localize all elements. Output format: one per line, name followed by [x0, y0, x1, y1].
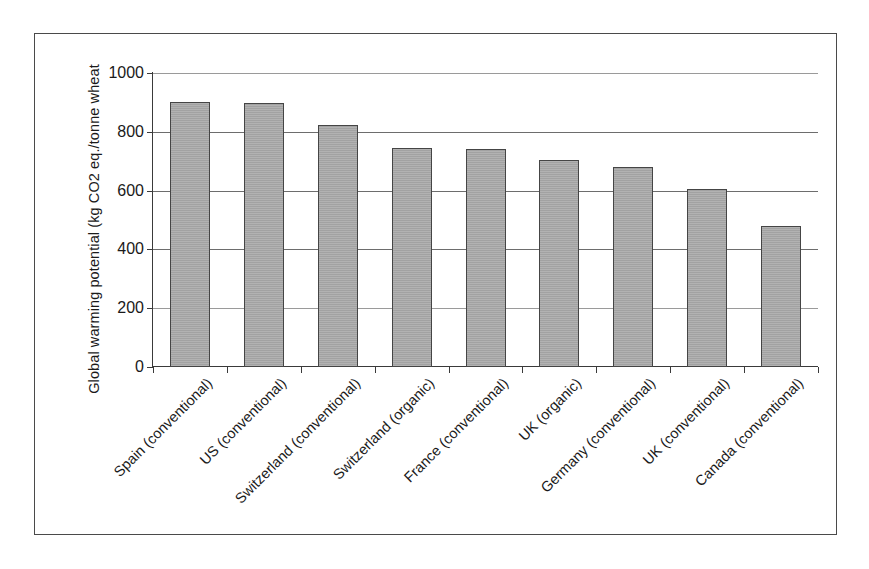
y-tick-label: 0 [135, 358, 144, 376]
bar [761, 226, 801, 367]
y-tick-group: 200 [153, 308, 154, 309]
x-tick-mark [744, 367, 745, 373]
y-tick-mark [147, 132, 153, 133]
x-tick-label: Switzerland (conventional) [231, 375, 363, 507]
y-tick-group: 800 [153, 132, 154, 133]
y-tick-mark [147, 73, 153, 74]
bar [687, 189, 727, 367]
y-tick-group: 400 [153, 249, 154, 250]
x-tick-mark [375, 367, 376, 373]
figure-frame: Global warming potential (kg CO2 eq./ton… [34, 33, 837, 535]
y-tick-label: 800 [117, 123, 144, 141]
bar [613, 167, 653, 367]
x-tick-mark [522, 367, 523, 373]
bar [170, 102, 210, 367]
y-tick-label: 200 [117, 299, 144, 317]
x-tick-mark [153, 367, 154, 373]
y-tick-mark [147, 191, 153, 192]
x-tick-mark [301, 367, 302, 373]
plot-inner: 02004006008001000 [153, 73, 818, 367]
y-tick-label: 400 [117, 240, 144, 258]
x-tick-label: UK (organic) [516, 375, 585, 444]
gridline [153, 73, 818, 74]
x-axis-labels: Spain (conventional)US (conventional)Swi… [153, 375, 818, 535]
y-tick-label: 600 [117, 182, 144, 200]
y-axis-title: Global warming potential (kg CO2 eq./ton… [86, 49, 108, 409]
y-tick-mark [147, 249, 153, 250]
bar [318, 125, 358, 367]
y-tick-mark [147, 308, 153, 309]
bar [244, 103, 284, 367]
x-tick-mark [596, 367, 597, 373]
y-tick-group: 600 [153, 191, 154, 192]
figure-canvas: Global warming potential (kg CO2 eq./ton… [0, 0, 869, 569]
y-tick-group: 1000 [153, 73, 154, 74]
bar [392, 148, 432, 367]
x-tick-mark [449, 367, 450, 373]
bar [539, 160, 579, 367]
y-axis-line [152, 72, 153, 368]
x-tick-mark [670, 367, 671, 373]
x-tick-mark [818, 367, 819, 373]
y-tick-label: 1000 [108, 64, 144, 82]
plot-area: 02004006008001000 [153, 73, 818, 367]
bar [466, 149, 506, 367]
x-tick-mark [227, 367, 228, 373]
x-tick-label: Spain (conventional) [110, 375, 215, 480]
